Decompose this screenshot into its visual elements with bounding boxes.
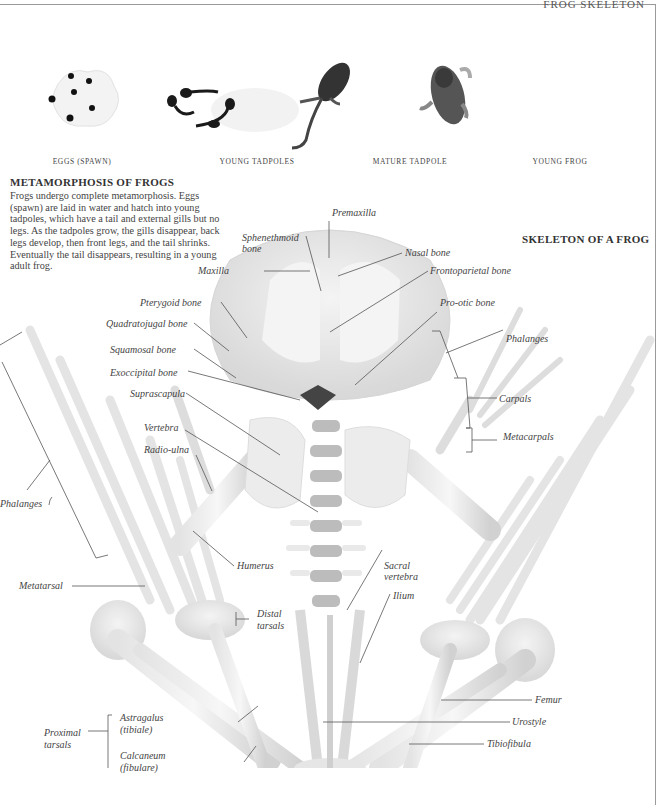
label-ilium: Ilium	[393, 590, 414, 602]
label-quadratojugal-bone: Quadratojugal bone	[106, 318, 187, 330]
label-proximal-tarsals: tarsals	[44, 739, 71, 751]
label-frontoparietal-bone: Frontoparietal bone	[430, 265, 511, 277]
label-distal-tarsals: tarsals	[257, 620, 284, 632]
label-tibiofibula: Tibiofibula	[487, 738, 531, 750]
mature-tadpole-image	[292, 57, 356, 148]
label-pterygoid-bone: Pterygoid bone	[140, 297, 201, 309]
label-distal: Distal	[257, 608, 281, 620]
label-nasal-bone: Nasal bone	[405, 247, 450, 259]
label-sphenethmoid-bone: bone	[242, 243, 261, 255]
label-calcaneum-fibulare: (fibulare)	[120, 762, 158, 774]
label-squamosal-bone: Squamosal bone	[110, 344, 176, 356]
label-sacral-vertebra: vertebra	[384, 571, 418, 583]
metamorphosis-title: METAMORPHOSIS OF FROGS	[10, 176, 174, 188]
stage-caption-mature-tadpole: MATURE TADPOLE	[335, 157, 485, 166]
label-urostyle: Urostyle	[512, 716, 546, 728]
label-sphenethmoid: Sphenethmoid	[242, 232, 299, 244]
label-proximal: Proximal	[44, 727, 81, 739]
label-calcaneum: Calcaneum	[120, 750, 166, 762]
stage-caption-young-frog: YOUNG FROG	[485, 157, 635, 166]
label-suprascapula: Suprascapula	[130, 388, 185, 400]
stage-caption-young-tadpoles: YOUNG TADPOLES	[182, 157, 332, 166]
label-astragalus: Astragalus	[120, 712, 163, 724]
label-metacarpals: Metacarpals	[503, 431, 554, 443]
frog-skeleton-image	[30, 230, 650, 768]
label-maxilla: Maxilla	[198, 265, 229, 277]
label-femur: Femur	[535, 694, 562, 706]
stage-caption-eggs: EGGS (SPAWN)	[7, 157, 157, 166]
label-phalanges-hand: Phalanges	[506, 333, 548, 345]
label-vertebra: Vertebra	[144, 422, 178, 434]
label-carpals: Carpals	[499, 393, 531, 405]
label-phalanges-foot: Phalanges	[0, 498, 42, 510]
label-pro-otic-bone: Pro-otic bone	[440, 297, 495, 309]
label-metatarsal: Metatarsal	[19, 580, 63, 592]
young-tadpoles-image	[167, 88, 299, 132]
frog-eggs-image	[49, 71, 119, 127]
label-exoccipital-bone: Exoccipital bone	[110, 367, 177, 379]
label-astragalus-tibiale: (tibiale)	[120, 724, 152, 736]
metamorphosis-body: Frogs undergo complete metamorphosis. Eg…	[10, 190, 230, 272]
label-humerus: Humerus	[237, 560, 274, 572]
skeleton-title: SKELETON OF A FROG	[522, 233, 649, 245]
label-sacral: Sacral	[384, 560, 410, 572]
label-radio-ulna: Radio-ulna	[144, 444, 189, 456]
young-frog-image	[420, 62, 471, 128]
label-premaxilla: Premaxilla	[332, 207, 376, 219]
